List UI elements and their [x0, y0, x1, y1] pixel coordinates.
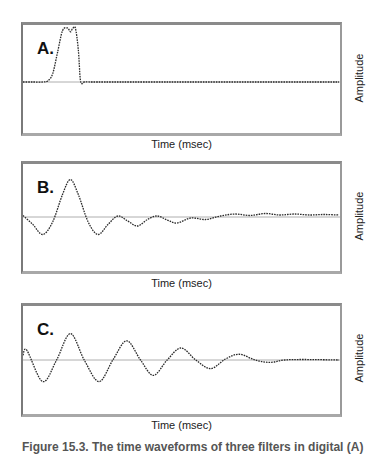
waveform-b — [23, 164, 340, 271]
waveform-c — [23, 306, 340, 414]
panel-a: A. — [21, 22, 342, 136]
panel-label-a: A. — [37, 39, 54, 59]
y-axis-label-c: Amplitude — [353, 323, 365, 393]
panel-c: C. — [21, 303, 342, 417]
panel-label-b: B. — [37, 178, 54, 198]
y-axis-label-b: Amplitude — [353, 181, 365, 251]
figure-caption: Figure 15.3. The time waveforms of three… — [22, 440, 363, 454]
x-axis-label-c: Time (msec) — [21, 419, 342, 431]
y-axis-label-a: Amplitude — [353, 43, 365, 113]
panel-label-c: C. — [37, 320, 54, 340]
panel-b: B. — [21, 161, 342, 274]
x-axis-label-b: Time (msec) — [21, 277, 342, 289]
x-axis-label-a: Time (msec) — [21, 138, 342, 150]
waveform-a — [23, 25, 340, 133]
